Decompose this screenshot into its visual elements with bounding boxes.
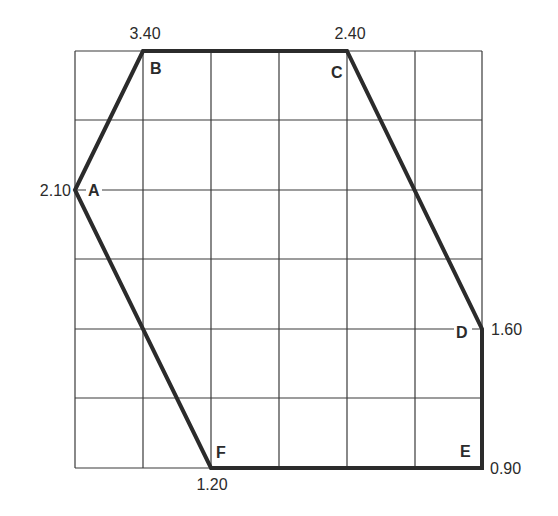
grid-polygon-diagram: A B C D E F 2.10 3.40 2.40 1.60 0.90 1.2… <box>0 0 558 516</box>
point-label-a: A <box>88 182 100 199</box>
point-value-c: 2.40 <box>334 25 365 42</box>
point-label-e: E <box>460 443 471 460</box>
grid <box>75 51 482 468</box>
point-value-b: 3.40 <box>129 25 160 42</box>
point-value-e: 0.90 <box>490 460 521 477</box>
point-label-f: F <box>216 444 226 461</box>
point-label-b: B <box>150 60 162 77</box>
point-value-f: 1.20 <box>196 476 227 493</box>
point-label-d: D <box>456 324 468 341</box>
point-label-c: C <box>331 64 343 81</box>
point-value-a: 2.10 <box>40 182 71 199</box>
point-value-d: 1.60 <box>491 321 522 338</box>
